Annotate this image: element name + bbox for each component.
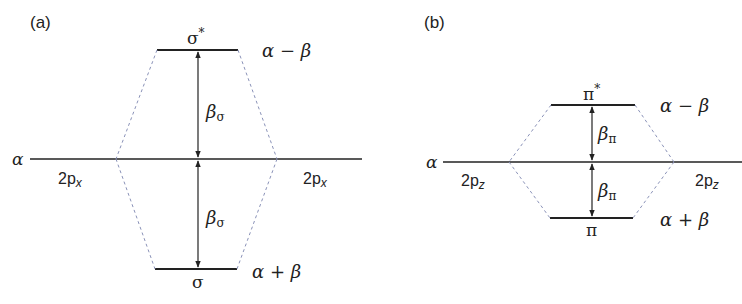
- antibonding-energy: α − β: [660, 95, 709, 116]
- bonding-label: π: [586, 220, 597, 240]
- gap-upper-label: βσ: [205, 101, 225, 124]
- antibonding-energy: α − β: [262, 40, 311, 61]
- right-orbital-label: 2px: [303, 170, 328, 190]
- panel-b-pi: (b) α 2pz 2pz π* π α − β α + β βπ βπ: [424, 13, 742, 240]
- antibonding-label: π*: [583, 82, 600, 104]
- gap-lower-label: βσ: [205, 207, 225, 230]
- left-orbital-label: 2pz: [461, 172, 485, 192]
- mo-energy-diagrams: (a) α 2px 2px σ* σ α − β α + β βσ βσ (b)…: [0, 0, 742, 304]
- bonding-label: σ: [192, 272, 204, 292]
- gap-upper-label: βπ: [597, 123, 616, 146]
- panel-a-sigma: (a) α 2px 2px σ* σ α − β α + β βσ βσ: [12, 13, 362, 292]
- panel-b-label: (b): [424, 13, 445, 32]
- antibonding-label: σ*: [187, 26, 205, 48]
- gap-lower-label: βπ: [597, 180, 616, 203]
- panel-a-label: (a): [30, 13, 51, 32]
- left-orbital-label: 2px: [58, 170, 83, 190]
- bonding-energy: α + β: [660, 209, 709, 230]
- right-orbital-label: 2pz: [695, 172, 719, 192]
- alpha-label: α: [12, 149, 24, 169]
- alpha-label: α: [426, 152, 438, 172]
- bonding-energy: α + β: [252, 261, 301, 282]
